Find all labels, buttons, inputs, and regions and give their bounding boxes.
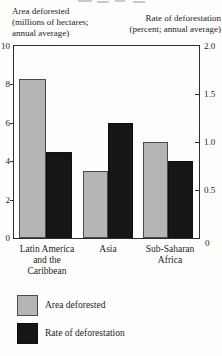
left-axis-tick-label: 10 [0, 41, 10, 51]
left-axis-tick-label: 4 [0, 156, 10, 166]
category-label-asia: Asia [88, 244, 128, 255]
bar-rate-asia [108, 123, 133, 238]
bar-area-latin-america [19, 79, 46, 238]
left-axis-tick-label: 6 [0, 118, 10, 128]
right-axis-tick [195, 190, 199, 191]
plot-area [13, 45, 200, 239]
left-axis-tick-label: 0 [0, 233, 10, 243]
right-axis-tick [195, 94, 199, 95]
bar-area-sub-saharan [143, 142, 168, 238]
bar-area-asia [83, 171, 108, 238]
left-axis-tick-label: 8 [0, 79, 10, 89]
right-axis-tick-label: 0 [205, 238, 222, 248]
right-axis-tick-label: 2.0 [204, 41, 222, 51]
right-axis-tick [195, 142, 199, 143]
legend-label-area-deforested: Area deforested [45, 300, 105, 311]
deforestation-bar-chart: Area deforested (millions of hectares; a… [0, 0, 222, 356]
right-axis-tick-label: 1.5 [204, 89, 222, 99]
legend-label-rate-of-deforestation: Rate of deforestation [45, 328, 125, 339]
right-axis-tick-label: 1.0 [204, 137, 222, 147]
legend-swatch-rate-of-deforestation [17, 323, 38, 344]
right-axis-tick-label: 0.5 [204, 185, 222, 195]
category-label-sub-saharan-africa: Sub-Saharan Africa [140, 244, 200, 266]
bar-rate-sub-saharan [168, 161, 193, 238]
legend-swatch-area-deforested [17, 295, 38, 316]
bar-rate-latin-america [46, 152, 72, 238]
category-label-latin-america: Latin America and the Caribbean [2, 244, 92, 277]
right-axis-title: Rate of deforestation (percent; annual a… [95, 13, 221, 35]
left-axis-tick-label: 2 [0, 195, 10, 205]
